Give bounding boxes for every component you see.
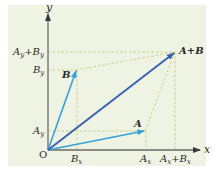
y-tick-ay: Ay — [32, 125, 45, 138]
vector-a — [48, 131, 144, 150]
vector-sum-label: A+B — [178, 45, 204, 56]
x-tick-bx: Bx — [70, 153, 82, 166]
x-tick-ax: Ax — [139, 153, 151, 166]
origin-label: O — [39, 149, 47, 160]
vector-a-label: A — [133, 118, 142, 129]
y-tick-ay-plus-by: Ay+By — [12, 46, 45, 59]
x-axis-label: x — [204, 143, 211, 156]
vector-addition-diagram: y x O B A A+B Ay+By By Ay Bx Ax Ax+Bx — [0, 0, 219, 172]
guide-b-to-sum — [76, 52, 175, 70]
y-axis-label: y — [45, 1, 53, 14]
x-tick-ax-plus-bx: Ax+Bx — [159, 153, 191, 166]
vector-a-plus-b — [48, 53, 174, 150]
y-tick-by: By — [32, 64, 45, 77]
vector-b-label: B — [61, 69, 70, 80]
